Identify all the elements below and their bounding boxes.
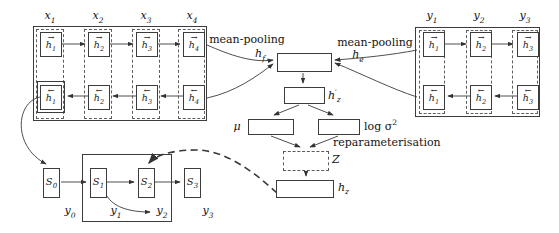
hidden-forward-y3: → h3 xyxy=(517,32,539,57)
input-token-y2: y2 xyxy=(474,9,485,24)
output-token-y0: y0 xyxy=(65,204,76,219)
output-token-y2: y2 xyxy=(157,204,168,219)
hidden-backward-y2: ← h2 xyxy=(470,85,492,110)
mu-label: μ xyxy=(233,120,240,133)
hidden-backward-x3: ← h3 xyxy=(136,85,158,110)
hidden-forward-x1: → h1 xyxy=(40,32,62,57)
arrow-mu-z xyxy=(271,136,300,147)
he-label: he xyxy=(352,48,364,63)
hidden-forward-y2: → h2 xyxy=(470,32,492,57)
log-sigma-box xyxy=(318,119,360,135)
log-sigma-label: log σ2 xyxy=(364,118,397,133)
hz-box xyxy=(276,180,334,198)
curve-yf-pool xyxy=(335,50,417,60)
output-token-y3: y3 xyxy=(203,204,214,219)
hidden-forward-x2: → h2 xyxy=(88,32,110,57)
mean-pooling-right-label: mean-pooling xyxy=(337,36,413,49)
hidden-backward-x2: ← h2 xyxy=(88,85,110,110)
hidden-forward-x4: → h4 xyxy=(183,32,205,57)
arrow-hzprime-mu xyxy=(274,105,299,115)
hz-label: hz xyxy=(338,181,349,196)
hidden-backward-x4: ← h4 xyxy=(183,85,205,110)
reparameterisation-label: reparameterisation xyxy=(333,136,441,149)
decoder-state-s2: S2 xyxy=(138,168,155,198)
pooled-concat-box xyxy=(277,53,332,72)
decoder-state-s0: S0 xyxy=(43,168,60,198)
z-label: Z xyxy=(332,153,340,166)
decoder-state-s1: S1 xyxy=(90,168,107,198)
latent-z-box xyxy=(283,151,329,171)
hidden-backward-y1: ← h1 xyxy=(423,85,445,110)
curve-xb-pool xyxy=(207,64,273,98)
input-token-x1: x1 xyxy=(45,9,56,24)
input-token-y3: y3 xyxy=(520,9,531,24)
input-token-y1: y1 xyxy=(427,9,438,24)
output-token-y1: y1 xyxy=(111,204,122,219)
vae-seq2seq-diagram: x1 x2 x3 x4 → h1 → h2 → h3 → h4 ← h1 ← h… xyxy=(0,0,559,233)
hidden-backward-x1: ← h1 xyxy=(40,85,62,110)
mean-pooling-left-label: mean-pooling xyxy=(209,33,285,46)
hidden-backward-y3: ← h3 xyxy=(517,85,539,110)
hf-label: hf xyxy=(255,47,265,62)
arrow-hzprime-logsigma xyxy=(308,105,333,115)
hz-prime-label: h′z xyxy=(328,88,341,104)
hidden-forward-y1: → h1 xyxy=(423,32,445,57)
mu-box xyxy=(248,119,294,135)
input-token-x2: x2 xyxy=(93,9,104,24)
hidden-forward-x3: → h3 xyxy=(136,32,158,57)
hz-prime-box xyxy=(284,87,325,104)
input-token-x3: x3 xyxy=(141,9,152,24)
curve-yb-pool xyxy=(335,63,417,97)
decoder-state-s3: S3 xyxy=(184,168,201,198)
input-token-x4: x4 xyxy=(187,9,198,24)
